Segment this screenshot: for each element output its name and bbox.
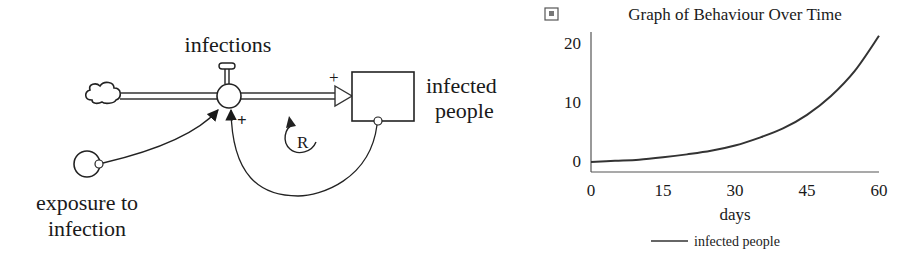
- series-line-infected-people: [591, 36, 879, 162]
- y-tick-label: 10: [564, 93, 581, 112]
- polarity-stock-to-flow: +: [237, 111, 247, 130]
- flow-label: infections: [185, 32, 272, 57]
- converter-exposure-to-infection[interactable]: [74, 151, 103, 177]
- x-tick-label: 45: [799, 181, 816, 200]
- graph-window-icon[interactable]: [545, 8, 558, 20]
- flow-arrowhead-icon: [335, 86, 352, 106]
- stock-infected-people[interactable]: [352, 72, 414, 121]
- legend: infected people: [651, 234, 780, 249]
- cloud-source-icon: [86, 82, 121, 103]
- converter-label-line1: exposure to: [36, 190, 138, 215]
- polarity-flow-to-stock: +: [329, 68, 339, 87]
- legend-label-infected-people: infected people: [694, 234, 780, 249]
- reinforcing-loop-icon: R: [285, 116, 316, 153]
- stock-label-line2: people: [435, 98, 494, 123]
- y-tick-label: 20: [564, 34, 581, 53]
- x-tick-label: 15: [655, 181, 672, 200]
- stock-label-line1: infected: [426, 73, 497, 98]
- x-tick-label: 60: [871, 181, 888, 200]
- flow-pipe-outflow: [241, 86, 352, 106]
- stock-flow-diagram: + + R infections infected people exposur…: [0, 0, 920, 265]
- x-tick-label: 0: [587, 181, 596, 200]
- link-exposure-to-infections: [103, 110, 218, 163]
- y-tick-label: 0: [573, 152, 582, 171]
- loop-label: R: [297, 133, 309, 152]
- behaviour-over-time-graph: Graph of Behaviour Over Time 01020 01530…: [545, 5, 888, 249]
- converter-label-line2: infection: [48, 216, 126, 241]
- x-axis-label: days: [719, 205, 750, 224]
- link-infected-people-to-infections: [231, 110, 382, 196]
- flow-pipe-inflow: [120, 93, 218, 99]
- chart-title: Graph of Behaviour Over Time: [628, 5, 841, 24]
- x-tick-label: 30: [727, 181, 744, 200]
- flow-valve-icon: [217, 63, 241, 108]
